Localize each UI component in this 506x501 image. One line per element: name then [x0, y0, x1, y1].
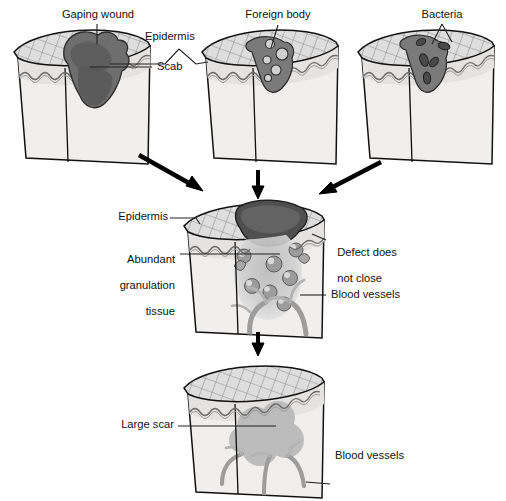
label-abundant: Abundant: [127, 253, 175, 265]
leader-defect: [312, 234, 326, 240]
top-row-leaders: [0, 0, 506, 185]
leader-bacteria-left: [432, 24, 442, 44]
leader-bacteria-right: [442, 24, 452, 42]
label-tissue: tissue: [146, 305, 175, 317]
label-bacteria: Bacteria: [392, 8, 492, 21]
leader-epidermis-mid: [170, 218, 200, 224]
leader-epidermis-right: [179, 49, 208, 64]
label-large-scar: Large scar: [70, 418, 174, 431]
label-abundant-granulation-tissue: Abundant granulation tissue: [60, 240, 175, 318]
label-defect-line1: Defect does: [337, 246, 397, 258]
label-defect-line2: not close: [337, 272, 382, 284]
label-blood-vessels-mid: Blood vessels: [331, 288, 400, 301]
label-granulation: granulation: [120, 279, 175, 291]
arrow-right-to-center: [319, 162, 381, 194]
label-epidermis-mid: Epidermis: [60, 210, 168, 223]
label-scab: Scab: [157, 60, 183, 73]
label-blood-vessels-bottom: Blood vessels: [335, 449, 404, 462]
arrow-center-to-bottom: [252, 332, 264, 356]
leader-blood-vessels-bottom: [306, 482, 330, 484]
leader-foreign-body: [271, 25, 278, 48]
label-gaping-wound: Gaping wound: [38, 8, 158, 21]
arrow-left-to-center: [139, 155, 203, 191]
label-foreign-body: Foreign body: [218, 8, 338, 21]
label-epidermis-top: Epidermis: [145, 30, 195, 43]
label-defect-does-not-close: Defect does not close: [331, 233, 451, 285]
